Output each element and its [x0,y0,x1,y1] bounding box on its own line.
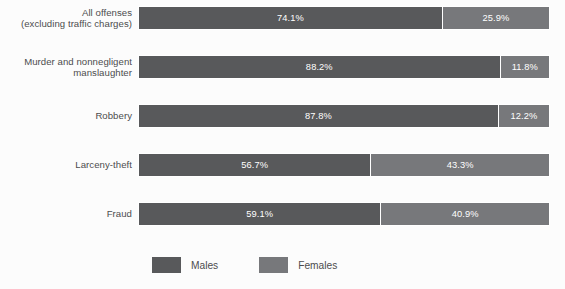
bar-track: 56.7% 43.3% [138,153,550,177]
chart-bar-row: Murder and nonnegligent manslaughter 88.… [0,54,565,80]
category-label: Robbery [0,110,138,122]
legend-label-females: Females [298,260,337,271]
bar-segment-males-value: 74.1% [277,13,304,23]
legend-spacer [0,265,152,266]
bar-segment-females-value: 40.9% [452,209,479,219]
chart-legend: Males Females [0,252,565,278]
bar-segment-females: 25.9% [443,7,549,29]
chart-bar-row: All offenses (excluding traffic charges)… [0,5,565,31]
bar-segment-females-value: 11.8% [512,62,538,72]
category-label: All offenses (excluding traffic charges) [0,7,138,30]
bar-segment-males: 87.8% [139,105,499,127]
bar-segment-males-value: 56.7% [241,160,268,170]
legend-swatch-females-icon [259,257,288,273]
bar-segment-males-value: 88.2% [306,62,333,72]
bar-segment-males: 88.2% [139,56,501,78]
bar-track: 59.1% 40.9% [138,202,550,226]
bar-segment-females-value: 25.9% [482,13,509,23]
legend-item-females: Females [259,257,337,273]
bar-segment-males: 59.1% [139,203,381,225]
chart-bar-row: Fraud 59.1% 40.9% [0,201,565,227]
legend-label-males: Males [191,260,218,271]
bar-track: 74.1% 25.9% [138,6,550,30]
chart-bar-row: Robbery 87.8% 12.2% [0,103,565,129]
bar-segment-females: 11.8% [501,56,549,78]
bar-segment-females: 43.3% [371,154,549,176]
category-label: Murder and nonnegligent manslaughter [0,56,138,79]
bar-segment-females-value: 12.2% [511,111,538,121]
legend-item-males: Males [152,257,218,273]
bar-segment-males-value: 59.1% [246,209,273,219]
bar-segment-males: 56.7% [139,154,371,176]
legend-gap [218,265,259,266]
bar-segment-males: 74.1% [139,7,443,29]
bar-segment-males-value: 87.8% [305,111,332,121]
bar-segment-females: 12.2% [499,105,549,127]
stacked-bar-chart: All offenses (excluding traffic charges)… [0,0,565,289]
chart-bar-row: Larceny-theft 56.7% 43.3% [0,152,565,178]
bar-segment-females-value: 43.3% [447,160,474,170]
bar-track: 88.2% 11.8% [138,55,550,79]
bar-track: 87.8% 12.2% [138,104,550,128]
category-label: Fraud [0,208,138,220]
legend-swatch-males-icon [152,257,181,273]
bar-segment-females: 40.9% [381,203,549,225]
category-label: Larceny-theft [0,159,138,171]
